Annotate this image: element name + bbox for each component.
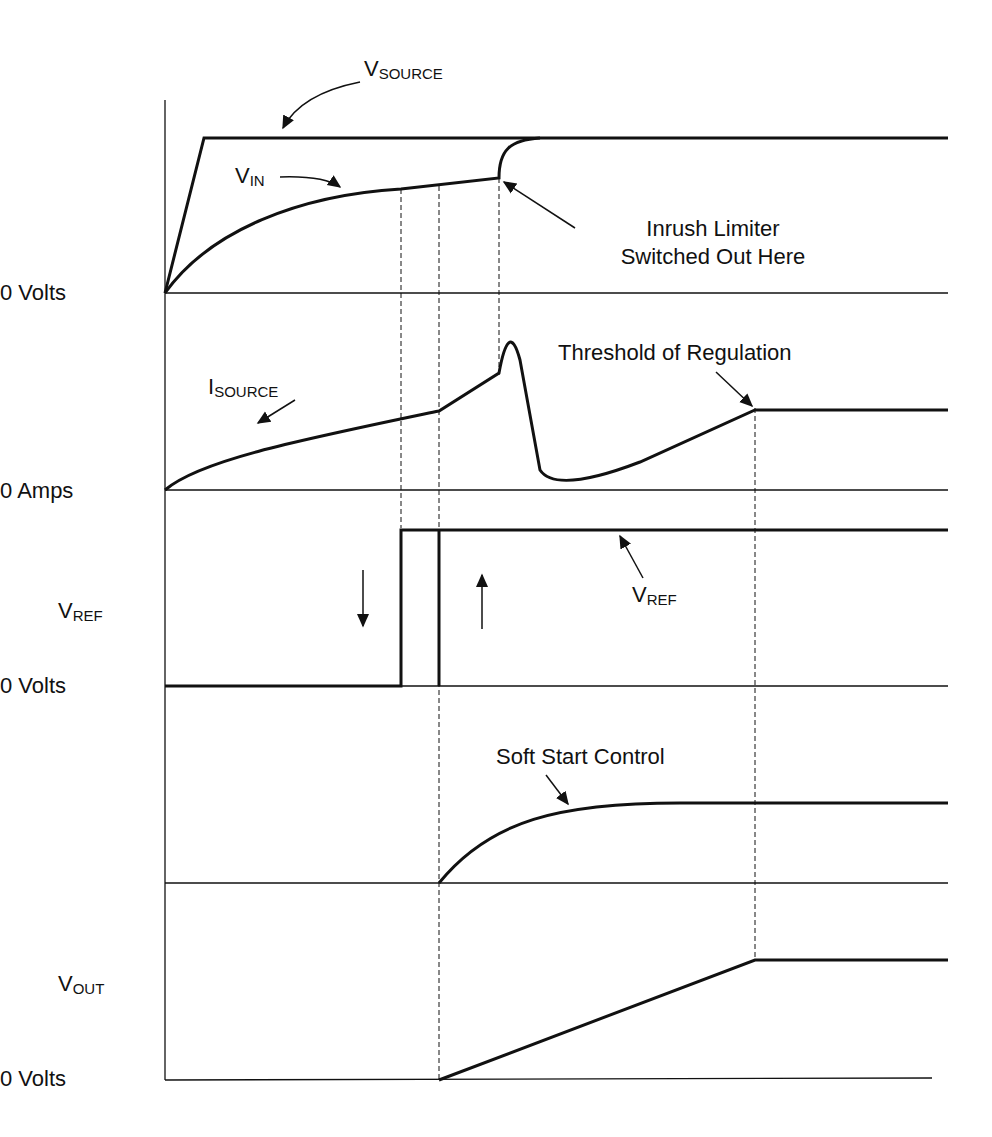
annotation-threshold: Threshold of Regulation xyxy=(558,340,792,366)
annotation-isource: ISOURCE xyxy=(208,374,278,400)
annotation-vref-curve: VREF xyxy=(632,582,677,608)
isource-curve xyxy=(165,342,948,490)
axis-label-vref: 0 Volts xyxy=(0,673,66,699)
vin-curve xyxy=(165,138,540,293)
axis-label-vout: 0 Volts xyxy=(0,1066,66,1092)
annotation-soft-start: Soft Start Control xyxy=(496,744,665,770)
baseline-vout xyxy=(165,1078,932,1080)
softstart-curve xyxy=(439,803,948,883)
annotation-vsource: VSOURCE xyxy=(364,56,443,82)
axis-label-vin: 0 Volts xyxy=(0,280,66,306)
axis-label-isource: 0 Amps xyxy=(0,478,73,504)
annotation-vin: VIN xyxy=(235,163,265,189)
signal-label-vout: VOUT xyxy=(58,971,104,997)
vref-curve xyxy=(165,530,948,686)
vout-curve xyxy=(439,960,948,1080)
timing-diagram xyxy=(0,0,992,1137)
signal-label-vref: VREF xyxy=(58,598,103,624)
annotation-inrush-limiter: Inrush Limiter Switched Out Here xyxy=(583,215,843,271)
